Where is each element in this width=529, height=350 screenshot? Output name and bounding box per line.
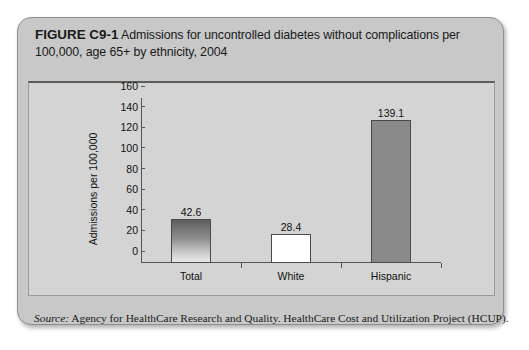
y-axis-tick-label: 0 (132, 245, 141, 257)
x-axis-tick-mark (241, 263, 242, 268)
y-axis-tick-label: 20 (126, 224, 141, 236)
y-axis-tick: 80 (126, 163, 141, 175)
chart-axes: 020406080100120140160 42.6Total28.4White… (141, 98, 441, 263)
y-axis-tick-label: 100 (120, 142, 141, 154)
bar-value-label: 28.4 (281, 221, 301, 233)
x-axis-category-label: Total (180, 270, 202, 282)
y-axis-tick: 140 (120, 101, 141, 113)
bar-value-label: 139.1 (378, 107, 404, 119)
y-axis-tick-label: 60 (126, 183, 141, 195)
y-axis-tick: 120 (120, 121, 141, 133)
y-axis-tick-label: 120 (120, 121, 141, 133)
source-line: Source: Agency for HealthCare Research a… (34, 312, 487, 324)
source-citation: Agency for HealthCare Research and Quali… (69, 312, 509, 324)
figure-title-band: FIGURE C9-1 Admissions for uncontrolled … (18, 18, 503, 67)
x-axis-category-label: White (278, 270, 305, 282)
page-title: FIGURE C9-1 Admissions for uncontrolled … (35, 27, 486, 60)
bar-slot: 28.4White (241, 98, 341, 263)
y-axis-tick: 100 (120, 142, 141, 154)
y-axis-tick: 0 (132, 245, 141, 257)
y-axis-label: Admissions per 100,000 (84, 83, 102, 295)
bar-white[interactable]: 28.4 (271, 234, 311, 263)
y-axis-tick-label: 160 (120, 80, 141, 92)
bar-group: 42.6Total28.4White139.1Hispanic (141, 98, 441, 263)
bar-hispanic[interactable]: 139.1 (371, 120, 411, 263)
source-label: Source: (34, 312, 69, 324)
bar-value-label: 42.6 (181, 206, 201, 218)
bar-total[interactable]: 42.6 (171, 219, 211, 263)
chart-panel: Admissions per 100,000 02040608010012014… (28, 81, 495, 296)
y-axis-tick-mark (141, 86, 145, 87)
figure-card: FIGURE C9-1 Admissions for uncontrolled … (17, 17, 504, 325)
y-axis-tick: 40 (126, 204, 141, 216)
y-axis-tick: 20 (126, 224, 141, 236)
bar-slot: 139.1Hispanic (341, 98, 441, 263)
y-axis-tick-label: 40 (126, 204, 141, 216)
x-axis-tick-mark (341, 263, 342, 268)
y-axis-tick: 60 (126, 183, 141, 195)
y-axis-tick-label: 80 (126, 163, 141, 175)
x-axis-tick-mark (441, 263, 442, 268)
figure-label: FIGURE C9-1 (35, 27, 118, 42)
bar-slot: 42.6Total (141, 98, 241, 263)
x-axis-category-label: Hispanic (371, 270, 411, 282)
source-band: Source: Agency for HealthCare Research a… (18, 305, 503, 324)
y-axis-tick-label: 140 (120, 101, 141, 113)
y-axis-tick: 160 (120, 80, 141, 92)
y-axis-label-text: Admissions per 100,000 (87, 133, 99, 246)
